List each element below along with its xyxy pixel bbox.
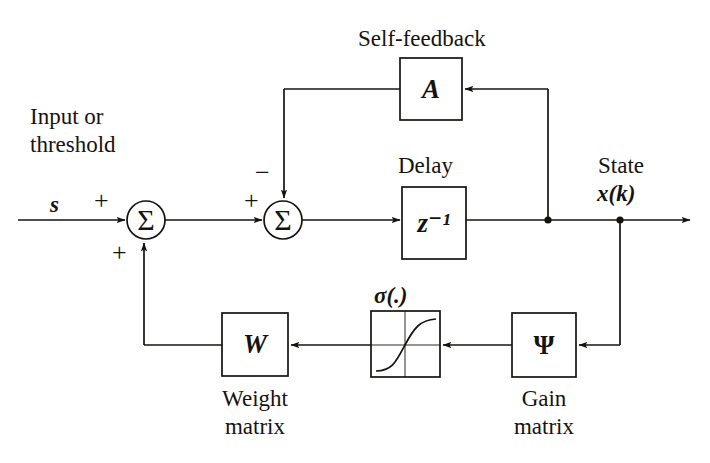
sigmoid-caption: σ(.) <box>374 283 407 309</box>
sum1-plus-bottom-sign: + <box>112 238 127 268</box>
sum1-plus-top-sign: + <box>94 186 109 216</box>
gain-caption-line2: matrix <box>487 414 601 440</box>
block-gain-rect[interactable] <box>512 313 576 377</box>
block-weight-rect[interactable] <box>222 313 288 376</box>
weight-caption-line2: matrix <box>196 414 314 440</box>
block-diagram-figure: Input or threshold s + + + − Self-feedba… <box>0 0 710 463</box>
diagram-canvas <box>0 0 710 463</box>
weight-caption-line1: Weight <box>196 386 314 412</box>
state-tap-self-feedback-dot <box>544 216 551 223</box>
feedback-summing-junction-circle[interactable] <box>264 201 302 239</box>
self-feedback-caption: Self-feedback <box>358 26 486 52</box>
input-label-line1: Input or <box>30 104 103 130</box>
block-a-rect[interactable] <box>400 58 462 120</box>
state-caption-line1: State <box>598 153 644 179</box>
block-delay-rect[interactable] <box>402 187 466 259</box>
gain-caption-line1: Gain <box>487 386 601 412</box>
delay-caption: Delay <box>398 153 453 179</box>
sum2-plus-left-sign: + <box>244 186 259 216</box>
input-summing-junction-circle[interactable] <box>127 201 165 239</box>
state-caption-line2: x(k) <box>597 181 635 207</box>
input-label-line2: threshold <box>30 132 116 158</box>
state-tap-gain-path-dot <box>616 216 623 223</box>
input-signal-label: s <box>50 192 59 218</box>
sum2-minus-top-sign: − <box>255 158 270 188</box>
